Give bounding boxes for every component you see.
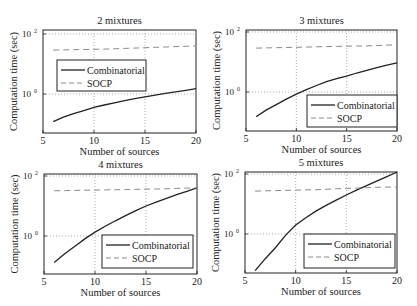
- x-tick-label: 15: [140, 135, 150, 146]
- legend-label: Combinatorial: [334, 239, 392, 250]
- series-socp: [256, 45, 397, 48]
- y-tick-label: 10: [23, 231, 33, 241]
- x-axis-label: Number of sources: [80, 146, 160, 157]
- y-tick-label: 10: [224, 229, 234, 239]
- legend: CombinatorialSOCP: [304, 234, 395, 268]
- legend-label: SOCP: [132, 253, 157, 264]
- x-tick-label: 10: [89, 135, 99, 146]
- x-axis-label: Number of sources: [282, 144, 362, 155]
- legend-label: Combinatorial: [337, 100, 395, 111]
- x-tick-label: 10: [291, 133, 301, 144]
- x-tick-label: 15: [342, 133, 352, 144]
- y-tick-label: 10: [23, 171, 33, 181]
- x-tick-label: 20: [392, 275, 402, 286]
- chart-grid-2x2: 51015201001022 mixturesNumber of sources…: [0, 0, 417, 306]
- y-axis-label: Computation time (sec): [211, 30, 223, 130]
- legend-label: Combinatorial: [87, 65, 145, 76]
- y-tick-label: 10: [22, 29, 32, 39]
- y-tick-exponent: 2: [236, 168, 239, 174]
- legend: CombinatorialSOCP: [307, 95, 397, 127]
- legend: CombinatorialSOCP: [102, 235, 193, 268]
- x-tick-label: 5: [42, 276, 47, 287]
- x-tick-label: 5: [41, 135, 46, 146]
- y-tick-exponent: 2: [34, 28, 37, 34]
- y-axis-label: Computation time (sec): [8, 31, 20, 131]
- y-tick-label: 10: [225, 87, 235, 97]
- x-tick-label: 20: [191, 135, 201, 146]
- x-tick-label: 5: [244, 133, 249, 144]
- subplot-4: 51015201001025 mixturesNumber of sources…: [210, 157, 402, 297]
- y-tick-exponent: 0: [236, 228, 239, 234]
- x-tick-label: 5: [243, 275, 248, 286]
- subplot-2: 51015201001023 mixturesNumber of sources…: [211, 15, 402, 155]
- legend-label: SOCP: [87, 78, 112, 89]
- series-socp: [54, 188, 197, 191]
- legend: CombinatorialSOCP: [57, 60, 146, 91]
- subplot-title: 4 mixtures: [98, 159, 143, 170]
- subplot-1: 51015201001022 mixturesNumber of sources…: [8, 15, 201, 157]
- x-tick-label: 20: [392, 133, 402, 144]
- subplot-title: 2 mixtures: [97, 15, 142, 26]
- y-tick-label: 10: [22, 89, 32, 99]
- x-tick-label: 15: [141, 276, 151, 287]
- y-tick-exponent: 0: [237, 86, 240, 92]
- subplot-title: 3 mixtures: [299, 15, 344, 26]
- figure: 51015201001022 mixturesNumber of sources…: [0, 0, 417, 306]
- series-socp: [255, 187, 397, 191]
- y-tick-exponent: 2: [35, 170, 38, 176]
- y-axis-label: Computation time (sec): [210, 172, 222, 272]
- subplot-3: 51015201001024 mixturesNumber of sources…: [9, 159, 202, 298]
- y-tick-exponent: 2: [237, 26, 240, 32]
- x-tick-label: 20: [192, 276, 202, 287]
- x-tick-label: 10: [291, 275, 301, 286]
- legend-label: Combinatorial: [132, 240, 190, 251]
- x-axis-label: Number of sources: [281, 286, 361, 297]
- y-tick-exponent: 0: [34, 88, 37, 94]
- y-tick-label: 10: [224, 169, 234, 179]
- legend-label: SOCP: [337, 113, 362, 124]
- y-tick-label: 10: [225, 27, 235, 37]
- y-axis-label: Computation time (sec): [9, 174, 21, 274]
- subplot-title: 5 mixtures: [299, 157, 344, 168]
- y-tick-exponent: 0: [35, 230, 38, 236]
- legend-label: SOCP: [334, 252, 359, 263]
- series-socp: [53, 46, 196, 50]
- x-tick-label: 10: [90, 276, 100, 287]
- x-tick-label: 15: [341, 275, 351, 286]
- x-axis-label: Number of sources: [81, 287, 161, 298]
